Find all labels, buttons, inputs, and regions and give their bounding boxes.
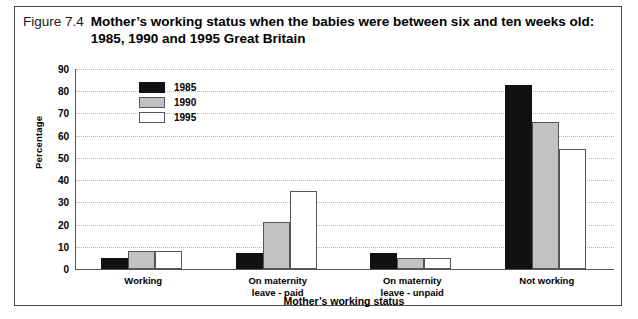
- y-axis-tick-label: 60: [58, 130, 69, 141]
- bar[interactable]: [290, 191, 317, 269]
- bar[interactable]: [559, 149, 586, 269]
- bar-group: Not working: [505, 69, 589, 269]
- bar[interactable]: [505, 85, 532, 269]
- x-axis-group-label-line: Not working: [519, 275, 574, 287]
- legend-item[interactable]: 1995: [139, 110, 196, 124]
- y-axis-tick-label: 20: [58, 219, 69, 230]
- y-axis-tick-label: 90: [58, 64, 69, 75]
- figure-title-line-1: Mother’s working status when the babies …: [91, 13, 594, 30]
- bar[interactable]: [424, 258, 451, 269]
- figure-title-line-2: 1985, 1990 and 1995 Great Britain: [91, 30, 594, 47]
- legend-label: 1985: [174, 82, 196, 93]
- legend-item[interactable]: 1990: [139, 95, 196, 109]
- x-axis-group-label: Working: [124, 275, 162, 287]
- y-axis-tick-label: 40: [58, 175, 69, 186]
- bar[interactable]: [236, 253, 263, 269]
- y-axis-tick-label: 0: [63, 264, 69, 275]
- legend-swatch-icon: [139, 97, 165, 108]
- bar[interactable]: [397, 258, 424, 269]
- bar[interactable]: [263, 222, 290, 269]
- y-axis-tick-label: 70: [58, 108, 69, 119]
- legend-item[interactable]: 1985: [139, 80, 196, 94]
- x-axis-group-label-line: On maternity: [381, 275, 444, 287]
- bar[interactable]: [370, 253, 397, 269]
- chart-legend: 198519901995: [139, 80, 196, 125]
- x-axis-group-label-line: On maternity: [248, 275, 307, 287]
- legend-swatch-icon: [139, 82, 165, 93]
- bar[interactable]: [532, 122, 559, 269]
- figure-frame: Figure 7.4 Mother’s working status when …: [14, 6, 622, 306]
- y-axis-tick-label: 10: [58, 241, 69, 252]
- y-axis-title: Percentage: [33, 116, 44, 169]
- figure-number: Figure 7.4: [23, 13, 91, 30]
- x-axis-title: Mother’s working status: [75, 295, 613, 307]
- legend-label: 1995: [174, 112, 196, 123]
- bar-group: On maternityleave - unpaid: [370, 69, 454, 269]
- x-axis-group-label-line: Working: [124, 275, 162, 287]
- legend-swatch-icon: [139, 112, 165, 123]
- y-axis-tick-label: 80: [58, 86, 69, 97]
- y-axis-tick-label: 50: [58, 152, 69, 163]
- bar[interactable]: [155, 251, 182, 269]
- figure-title-block: Figure 7.4 Mother’s working status when …: [23, 13, 615, 47]
- figure-title: Mother’s working status when the babies …: [91, 13, 594, 47]
- bar[interactable]: [101, 258, 128, 269]
- bar[interactable]: [128, 251, 155, 269]
- x-axis-group-label: Not working: [519, 275, 574, 287]
- y-axis-tick-label: 30: [58, 197, 69, 208]
- bar-group: On maternityleave - paid: [236, 69, 320, 269]
- legend-label: 1990: [174, 97, 196, 108]
